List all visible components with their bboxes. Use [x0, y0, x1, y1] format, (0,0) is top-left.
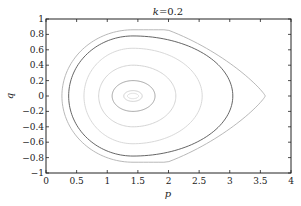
x-axis-ticks: 00.511.522.533.54 [43, 19, 294, 186]
x-tick-label: 2.5 [192, 176, 207, 186]
x-tick-label: 0 [43, 176, 49, 186]
y-tick-label: 0 [38, 91, 44, 101]
y-tick-label: −0.6 [22, 137, 44, 147]
y-tick-label: −0.8 [22, 153, 44, 163]
y-tick-label: −0.4 [22, 122, 44, 132]
chart-title: k=0.2 [153, 6, 183, 17]
orbit-2-curve [84, 48, 202, 143]
x-tick-label: 1 [104, 176, 110, 186]
orbit-4-curve [112, 81, 155, 112]
orbit-3-curve [99, 65, 176, 127]
y-axis-ticks: −1−0.8−0.6−0.4−0.200.20.40.60.81 [22, 14, 291, 178]
phase-portrait-chart: 00.511.522.533.54 −1−0.8−0.6−0.4−0.200.2… [0, 0, 301, 206]
x-tick-label: 4 [288, 176, 294, 186]
y-tick-label: 0.8 [30, 29, 45, 39]
y-tick-label: 0.6 [30, 45, 45, 55]
x-tick-label: 2 [166, 176, 172, 186]
y-axis-label: q [4, 93, 15, 99]
x-tick-label: 1.5 [131, 176, 146, 186]
orbit-curves [62, 30, 265, 162]
x-tick-label: 0.5 [69, 176, 84, 186]
y-tick-label: −0.2 [22, 106, 44, 116]
x-axis-label: p [165, 188, 172, 199]
y-tick-label: 0.4 [30, 60, 45, 70]
x-tick-label: 3.5 [253, 176, 268, 186]
y-tick-label: −1 [31, 168, 44, 178]
orbit-1-curve [69, 36, 233, 156]
y-tick-label: 0.2 [30, 76, 44, 86]
orbit-6-curve [127, 93, 138, 98]
x-tick-label: 3 [227, 176, 233, 186]
y-tick-label: 1 [38, 14, 44, 24]
orbit-5-curve [124, 91, 142, 102]
plot-frame [46, 19, 291, 173]
